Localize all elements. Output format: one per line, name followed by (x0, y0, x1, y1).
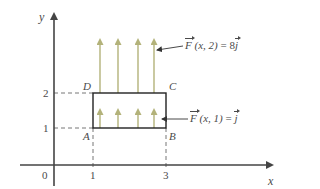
annotation-f-x-1: F (x, 1) = j (190, 113, 237, 124)
leader-line-top (157, 46, 183, 50)
x-tick-1: 1 (90, 170, 96, 181)
y-tick-2: 2 (43, 88, 49, 99)
origin-label: 0 (42, 170, 48, 181)
y-axis-label: y (39, 11, 44, 23)
vector-f-symbol: F (185, 40, 192, 51)
args: (x, 1) (199, 112, 222, 124)
corner-label-d: D (83, 81, 91, 92)
field-arrows-bottom (100, 110, 154, 128)
unit-vector-j: j (234, 113, 237, 124)
corner-label-a: A (83, 131, 90, 142)
corner-label-c: C (169, 81, 176, 92)
region-rectangle (93, 93, 166, 128)
x-tick-3: 3 (163, 170, 169, 181)
corner-label-b: B (169, 131, 176, 142)
dashed-guides (54, 93, 166, 170)
unit-vector-j: j (235, 40, 238, 51)
x-axis-label: x (268, 175, 273, 187)
args: (x, 2) (194, 39, 217, 51)
field-arrows-top (100, 40, 154, 93)
equals: = (220, 39, 226, 51)
annotation-f-x-2: F (x, 2) = 8j (185, 40, 238, 51)
vector-f-symbol: F (190, 113, 197, 124)
y-tick-1: 1 (43, 123, 49, 134)
equals: = (225, 112, 231, 124)
